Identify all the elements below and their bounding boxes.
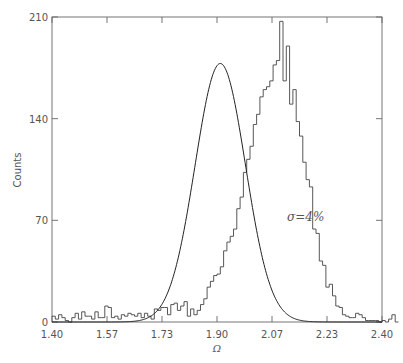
plot-frame — [52, 17, 382, 322]
histogram-chart: 1.401.571.731.902.072.232.40070140210 Co… — [0, 0, 403, 363]
y-axis-title: Counts — [12, 153, 23, 188]
y-tick-label: 140 — [29, 114, 48, 125]
x-tick-label: 1.73 — [151, 329, 173, 340]
x-tick-label: 1.40 — [41, 329, 63, 340]
x-tick-label: 1.90 — [206, 329, 228, 340]
x-tick-label: 2.23 — [316, 329, 338, 340]
histogram-series — [52, 21, 399, 322]
sigma-annotation: σ=4% — [287, 210, 324, 224]
y-tick-label: 210 — [29, 12, 48, 23]
gaussian-fit-line — [52, 63, 382, 322]
x-axis-title: Ω — [212, 343, 221, 354]
x-tick-label: 1.57 — [96, 329, 118, 340]
y-tick-label: 0 — [42, 317, 48, 328]
y-tick-label: 70 — [35, 215, 48, 226]
x-tick-label: 2.40 — [371, 329, 393, 340]
x-tick-label: 2.07 — [261, 329, 283, 340]
